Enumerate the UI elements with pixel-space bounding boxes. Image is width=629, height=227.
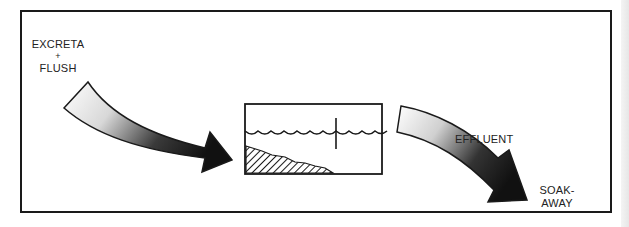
input-label-plus: + [30, 51, 86, 62]
effluent-label: EFFLUENT [455, 133, 513, 146]
soakaway-label: SOAK- AWAY [535, 184, 579, 210]
outflow-arrow [397, 106, 527, 202]
soakaway-line1: SOAK- [535, 184, 579, 197]
septic-tank [245, 104, 387, 174]
soakaway-line2: AWAY [535, 197, 579, 210]
effluent-text: EFFLUENT [455, 133, 513, 145]
inflow-arrow [64, 82, 232, 172]
page-edge [621, 0, 629, 227]
input-label: EXCRETA + FLUSH [30, 38, 86, 75]
input-label-line1: EXCRETA [30, 38, 86, 51]
input-label-line2: FLUSH [30, 62, 86, 75]
